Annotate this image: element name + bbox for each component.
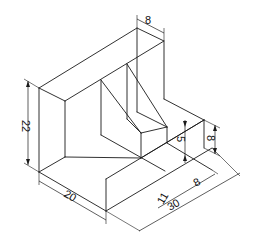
rib	[101, 64, 167, 135]
dim-label-step-right: 8	[205, 135, 217, 141]
dim-label-top: 8	[145, 14, 151, 26]
dim-label-width: 20	[62, 187, 79, 204]
dim-label-step-small: 5	[175, 136, 187, 142]
dimension-width-20: 20	[39, 172, 106, 224]
back-block	[39, 28, 164, 172]
isometric-drawing: 8 22 20 5 8 8 11	[0, 0, 256, 248]
dimension-step-8: 8	[204, 120, 220, 156]
dimension-top-8: 8	[137, 14, 164, 41]
dimension-lengths: 8 11 30	[106, 148, 240, 231]
dim-label-step-depth: 8	[191, 175, 202, 188]
dim-label-height: 22	[20, 120, 32, 132]
dimension-height-22: 22	[20, 79, 39, 172]
dimension-step-5: 5	[175, 120, 187, 163]
